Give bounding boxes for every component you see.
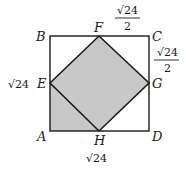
label-h: H [93,133,106,148]
measure-fc-denominator: 2 [124,20,131,33]
measure-bottom-side: √24 [86,152,107,165]
label-a: A [36,129,46,144]
label-d: D [151,129,163,144]
label-c: C [152,29,162,44]
label-f: F [93,20,104,35]
measure-cg-denominator: 2 [164,62,171,75]
label-g: G [152,76,162,91]
measure-left-side: √24 [8,78,29,91]
measure-fc-numerator: √24 [117,4,138,17]
label-e: E [36,76,47,91]
measure-cg-numerator: √24 [157,46,178,59]
label-b: B [35,29,46,44]
geometry-figure: B F C E G A H D √24 2 √24 2 √24 √24 [0,0,186,172]
